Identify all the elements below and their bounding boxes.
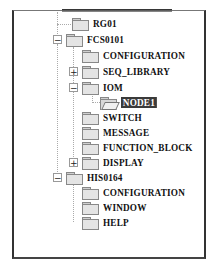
collapse-icon[interactable]: − [53,35,62,44]
tree-item-label: SWITCH [103,112,142,123]
tree-item-configuration[interactable]: CONFIGURATION [82,48,192,63]
collapse-icon[interactable]: − [69,83,78,92]
folder-icon [66,172,82,184]
expand-icon[interactable]: + [69,67,78,76]
tree-item-window[interactable]: WINDOW [82,200,150,215]
folder-icon [72,18,88,30]
tree-item-display[interactable]: DISPLAY [82,155,147,170]
tree-item-label: WINDOW [103,202,147,213]
tree-item-label: DISPLAY [103,157,144,168]
tree-connector [57,24,71,25]
folder-icon [82,142,98,154]
tree-item-label: CONFIGURATION [103,187,185,198]
tree-item-label: CONFIGURATION [103,50,185,61]
tree-connector [57,44,58,178]
tree-item-label: RG01 [93,18,117,29]
tree-item-label: HELP [103,217,129,228]
tree-item-iom[interactable]: IOM [82,80,125,95]
tree-item-label: HIS0164 [87,172,123,183]
tree-item-switch[interactable]: SWITCH [82,110,145,125]
tree-item-rg01[interactable]: RG01 [72,16,119,31]
tree-item-message[interactable]: MESSAGE [82,125,153,140]
folder-icon [82,217,98,229]
tree-item-label: FCS0101 [87,34,124,45]
tree-item-label: IOM [103,82,123,93]
folder-icon [82,82,98,94]
tree-connector [73,182,74,222]
tree-item-label: MESSAGE [103,127,149,138]
tree-item-label: FUNCTION_BLOCK [103,142,192,153]
tree-item-fcs0101[interactable]: FCS0101 [66,32,127,47]
tree-item-label-selected: NODE1 [121,97,157,108]
tree-item-label: SEQ_LIBRARY [103,66,170,77]
tree-item-node1[interactable]: NODE1 [100,95,160,110]
folder-icon [82,127,98,139]
tree-item-his0164[interactable]: HIS0164 [66,170,126,185]
tree-item-help[interactable]: HELP [82,215,131,230]
expand-icon[interactable]: + [69,158,78,167]
folder-icon [82,50,98,62]
tree-item-function-block[interactable]: FUNCTION_BLOCK [82,140,200,155]
folder-icon [82,112,98,124]
collapse-icon[interactable]: − [53,173,62,182]
tree-item-seq-library[interactable]: SEQ_LIBRARY [82,64,176,79]
folder-icon [82,187,98,199]
folder-icon [82,157,98,169]
tree-item-configuration-his[interactable]: CONFIGURATION [82,185,192,200]
folder-icon [82,66,98,78]
tree-connector [73,47,74,165]
folder-icon [66,34,82,46]
partial-top-item [62,9,172,12]
open-folder-icon [100,97,116,109]
folder-icon [82,202,98,214]
